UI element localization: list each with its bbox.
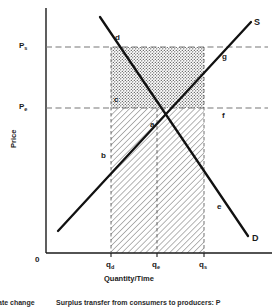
point-label-a: a [150,121,154,129]
quantity-label-qs: qs [199,261,207,269]
region-consumer-loss [111,47,204,108]
chart-figure: Price Quantity/Time 0 Ps Pe qd qe qs S D… [0,0,280,307]
point-label-f: f [222,112,225,120]
quantity-label-qe-sub: e [157,264,160,270]
quantity-label-qd: qd [106,261,114,269]
y-axis-title: Price [9,130,18,148]
caption-right-fragment: Surplus transfer from consumers to produ… [56,299,221,306]
point-label-b: b [101,152,106,160]
supply-demand-plot [0,0,280,307]
quantity-label-qs-sub: s [204,264,207,270]
curve-label-supply: S [254,18,260,27]
point-label-g: g [222,53,227,61]
price-label-pe: Pe [19,103,27,111]
caption-left-fragment: ate change [0,299,35,306]
quantity-label-qe: qe [152,261,160,269]
point-label-e: e [217,203,221,211]
curve-label-demand: D [252,234,259,243]
x-axis-title: Quantity/Time [104,274,154,283]
region-producer-gain [111,108,204,253]
origin-label: 0 [35,256,39,264]
price-label-ps: Ps [19,42,27,50]
price-label-ps-sub: s [24,45,27,51]
quantity-label-qd-sub: d [111,264,114,270]
point-label-c: c [114,96,118,104]
price-label-pe-sub: e [24,106,27,112]
point-label-d: d [115,34,120,42]
